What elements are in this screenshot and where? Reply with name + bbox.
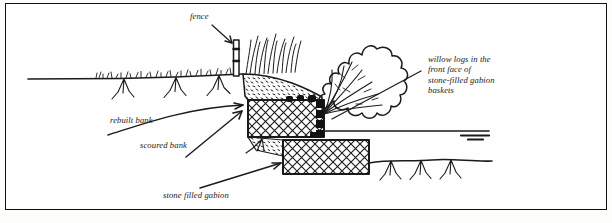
fence-post [234,40,240,76]
river-bed-line [369,159,492,163]
diagram-canvas: fence rebuilt bank scoured bank stone fi… [0,0,612,223]
soil-wedge-between-baskets [248,137,283,156]
lower-gabion-basket [283,140,369,174]
upper-gabion-basket [248,100,324,137]
arrow-scoured-bank [186,111,242,157]
willow-stems [324,62,382,114]
river-bed-roots [380,160,461,180]
label-rebuilt-bank: rebuilt bank [110,115,153,125]
label-scoured-bank: scoured bank [140,140,187,150]
label-willow-logs: willow logs in the front face of stone-f… [428,54,495,96]
label-stone-filled-gabion: stone filled gabion [163,190,229,200]
reed-vegetation [246,34,301,74]
label-fence: fence [190,11,209,21]
water-level-symbol [324,131,489,140]
arrow-stone-filled-gabion [200,163,281,188]
arrow-fence [212,25,232,43]
diagram-artwork [0,0,612,223]
